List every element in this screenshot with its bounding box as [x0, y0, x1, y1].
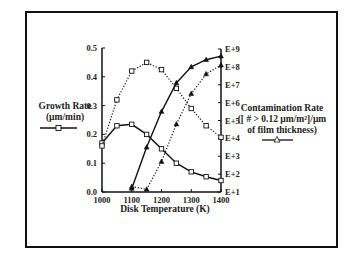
square-marker	[219, 178, 223, 182]
triangle-marker	[219, 54, 224, 58]
right-tick-label: E+7	[225, 80, 241, 90]
left-tick-label: 0.4	[86, 72, 97, 82]
square-marker	[204, 124, 208, 128]
growth-rate-unit: (µm/min)	[30, 112, 100, 123]
square-marker	[174, 161, 178, 165]
square-marker	[130, 122, 134, 126]
left-tick-label: 0.5	[86, 43, 97, 53]
right-tick-label: E+8	[225, 62, 240, 72]
series-line	[102, 124, 221, 180]
square-marker	[144, 132, 148, 136]
square-marker	[115, 98, 119, 102]
contamination-rate-unit: ([ # > 0.12 µm/m²]/µm	[228, 114, 336, 125]
right-tick-label: E+2	[225, 169, 240, 179]
triangle-marker	[144, 145, 149, 149]
triangle-marker	[144, 187, 149, 191]
left-tick-label: 0.1	[86, 158, 97, 168]
left-tick-label: 0.2	[86, 129, 97, 139]
contamination-legend-triangle-icon	[274, 137, 280, 143]
triangle-marker	[174, 121, 179, 125]
series-line	[102, 62, 221, 146]
square-marker	[115, 124, 119, 128]
square-marker	[100, 144, 104, 148]
square-marker	[144, 60, 148, 64]
x-axis-label: Disk Temperature (K)	[100, 204, 230, 215]
growth-rate-label: Growth Rate	[30, 101, 100, 112]
right-tick-label: E+3	[225, 151, 240, 161]
contamination-rate-unit-2: of film thickness)	[228, 125, 336, 136]
triangle-marker	[219, 62, 224, 66]
square-marker	[204, 175, 208, 179]
square-marker	[219, 135, 223, 139]
left-axis-legend: Growth Rate (µm/min)	[30, 101, 100, 123]
square-marker	[159, 67, 163, 71]
contamination-rate-label: Contamination Rate	[228, 103, 336, 114]
square-marker	[189, 106, 193, 110]
square-marker	[130, 69, 134, 73]
right-tick-label: E+9	[225, 44, 240, 54]
triangle-marker	[159, 159, 164, 163]
right-axis-legend: Contamination Rate ([ # > 0.12 µm/m²]/µm…	[228, 103, 336, 136]
growth-legend-square-icon	[56, 126, 61, 131]
square-marker	[159, 147, 163, 151]
square-marker	[189, 170, 193, 174]
